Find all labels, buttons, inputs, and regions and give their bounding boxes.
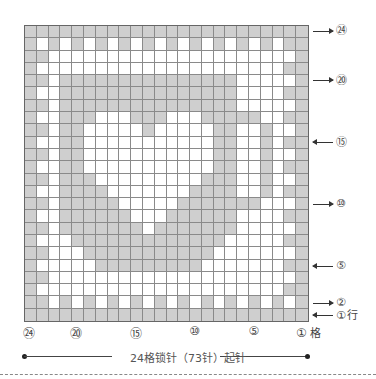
open-cell — [60, 284, 72, 296]
shaded-cell — [119, 26, 131, 38]
open-cell — [237, 210, 249, 222]
open-cell — [237, 51, 249, 63]
open-cell — [273, 284, 285, 296]
shaded-cell — [84, 309, 96, 321]
shaded-cell — [214, 186, 226, 198]
shaded-cell — [225, 26, 237, 38]
row-number: ② — [336, 297, 346, 309]
shaded-cell — [296, 272, 308, 284]
shaded-cell — [225, 296, 237, 308]
open-cell — [202, 149, 214, 161]
open-cell — [273, 272, 285, 284]
open-cell — [214, 284, 226, 296]
column-label-10: ⑩ — [189, 324, 200, 338]
open-cell — [237, 296, 249, 308]
open-cell — [49, 63, 61, 75]
shaded-cell — [214, 112, 226, 124]
shaded-cell — [108, 100, 120, 112]
shaded-cell — [60, 26, 72, 38]
open-cell — [284, 75, 296, 87]
shaded-cell — [96, 100, 108, 112]
open-cell — [261, 75, 273, 87]
open-cell — [131, 272, 143, 284]
open-cell — [60, 272, 72, 284]
open-cell — [143, 284, 155, 296]
row-number: ⑩ — [336, 198, 346, 210]
shaded-cell — [131, 112, 143, 124]
shaded-cell — [190, 235, 202, 247]
open-cell — [273, 38, 285, 50]
open-cell — [190, 296, 202, 308]
shaded-cell — [72, 309, 84, 321]
open-cell — [167, 284, 179, 296]
shaded-cell — [49, 38, 61, 50]
shaded-cell — [190, 223, 202, 235]
open-cell — [273, 210, 285, 222]
shaded-cell — [167, 260, 179, 272]
shaded-cell — [25, 112, 37, 124]
shaded-cell — [37, 223, 49, 235]
open-cell — [37, 284, 49, 296]
shaded-cell — [190, 260, 202, 272]
open-cell — [190, 174, 202, 186]
shaded-cell — [296, 38, 308, 50]
open-cell — [37, 63, 49, 75]
shaded-cell — [214, 149, 226, 161]
shaded-cell — [167, 26, 179, 38]
shaded-cell — [37, 75, 49, 87]
open-cell — [37, 112, 49, 124]
open-cell — [261, 87, 273, 99]
open-cell — [108, 272, 120, 284]
shaded-cell — [261, 174, 273, 186]
shaded-cell — [96, 186, 108, 198]
shaded-cell — [84, 112, 96, 124]
open-cell — [155, 149, 167, 161]
shaded-cell — [167, 309, 179, 321]
open-cell — [249, 247, 261, 259]
open-cell — [155, 38, 167, 50]
shaded-cell — [72, 174, 84, 186]
open-cell — [37, 87, 49, 99]
shaded-cell — [155, 75, 167, 87]
shaded-cell — [214, 100, 226, 112]
shaded-cell — [25, 124, 37, 136]
shaded-cell — [60, 75, 72, 87]
open-cell — [225, 260, 237, 272]
open-cell — [37, 38, 49, 50]
open-cell — [190, 161, 202, 173]
shaded-cell — [119, 309, 131, 321]
shaded-cell — [119, 260, 131, 272]
shaded-cell — [214, 26, 226, 38]
shaded-cell — [284, 235, 296, 247]
shaded-cell — [37, 174, 49, 186]
shaded-cell — [190, 26, 202, 38]
row-number: ⑳ — [336, 75, 347, 87]
shaded-cell — [225, 124, 237, 136]
shaded-cell — [237, 26, 249, 38]
shaded-cell — [108, 235, 120, 247]
open-cell — [49, 149, 61, 161]
shaded-cell — [155, 247, 167, 259]
open-cell — [202, 161, 214, 173]
shaded-cell — [225, 87, 237, 99]
open-cell — [167, 149, 179, 161]
shaded-cell — [190, 186, 202, 198]
open-cell — [143, 51, 155, 63]
open-cell — [249, 186, 261, 198]
open-cell — [202, 51, 214, 63]
open-cell — [108, 124, 120, 136]
open-cell — [178, 51, 190, 63]
shaded-cell — [72, 100, 84, 112]
open-cell — [214, 63, 226, 75]
open-cell — [178, 149, 190, 161]
shaded-cell — [273, 296, 285, 308]
shaded-cell — [237, 112, 249, 124]
shaded-cell — [119, 100, 131, 112]
shaded-cell — [119, 210, 131, 222]
row-label-24: ㉔ — [313, 25, 347, 37]
shaded-cell — [296, 260, 308, 272]
open-cell — [96, 51, 108, 63]
shaded-cell — [225, 174, 237, 186]
open-cell — [84, 161, 96, 173]
shaded-cell — [96, 210, 108, 222]
